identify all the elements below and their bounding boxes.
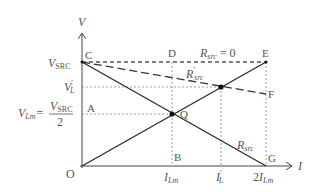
q-point [169,111,174,116]
load-line-diagram: V I O C D E F A B G Q VSRC V′L VLm= VSRC… [0,0,312,192]
point-b-label: B [174,151,181,163]
point-a-label: A [87,102,95,114]
point-e-label: E [262,47,269,59]
vlm-fraction-denominator: 2 [57,115,63,129]
vsrc-label: VSRC [48,56,70,71]
point-f-label: F [268,88,274,100]
operating-point-prime [218,84,223,89]
vl-prime-label: V′L [64,79,75,95]
vlm-fraction-numerator: VSRC [50,99,72,114]
two-ilm-label: 2ILm [253,170,273,185]
rsrc-prime-label: R′src [185,66,204,82]
e-point [265,61,268,64]
il-prime-label: I′L [215,169,224,185]
origin-label: O [66,167,75,181]
rsrc-label: Rsrc [236,138,254,153]
point-c-label: C [85,49,92,61]
point-q-label: Q [180,108,188,120]
ilm-label: ILm [163,170,178,185]
c-point [81,61,84,64]
rsrc-zero-label: Rsrc = 0 [199,46,236,61]
vlm-label: VLm= [18,106,44,121]
point-d-label: D [168,47,176,59]
point-g-label: G [268,152,276,164]
i-axis-label: I [297,159,303,173]
v-axis-label: V [78,15,87,29]
